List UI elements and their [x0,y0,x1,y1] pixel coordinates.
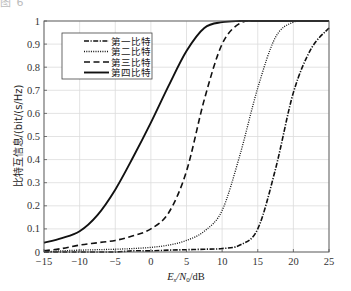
mutual-information-chart: −15−10−5051015202500.10.20.30.40.50.60.7… [0,0,351,291]
y-tick-label: 0.6 [27,108,40,119]
y-tick-label: 0.5 [27,131,40,142]
x-tick-label: −5 [110,256,121,267]
legend-label: 第一比特 [111,36,151,47]
y-tick-label: 1 [35,16,40,27]
x-tick-label: 15 [253,256,264,267]
y-tick-label: 0.1 [27,223,40,234]
y-tick-label: 0.2 [27,200,40,211]
x-tick-label: 0 [148,256,153,267]
y-tick-label: 0.8 [27,62,40,73]
legend-label: 第三比特 [111,57,151,68]
x-tick-label: 5 [184,256,189,267]
x-tick-label: 20 [288,256,299,267]
x-axis-label: Es/N0/dB [166,271,205,284]
legend: 第一比特第二比特第三比特第四比特 [62,33,152,79]
x-tick-label: −15 [36,256,52,267]
x-tick-label: −10 [71,256,87,267]
y-axis-label: 比特互信息/(bit/(s/Hz) [12,84,24,187]
y-tick-label: 0.7 [27,85,40,96]
legend-label: 第四比特 [111,67,151,78]
x-tick-label: 10 [217,256,228,267]
legend-label: 第二比特 [111,46,151,57]
x-tick-label: 25 [324,256,335,267]
y-tick-label: 0 [35,247,40,258]
y-tick-label: 0.4 [27,154,41,165]
y-tick-label: 0.9 [27,39,40,50]
y-tick-label: 0.3 [27,177,40,188]
